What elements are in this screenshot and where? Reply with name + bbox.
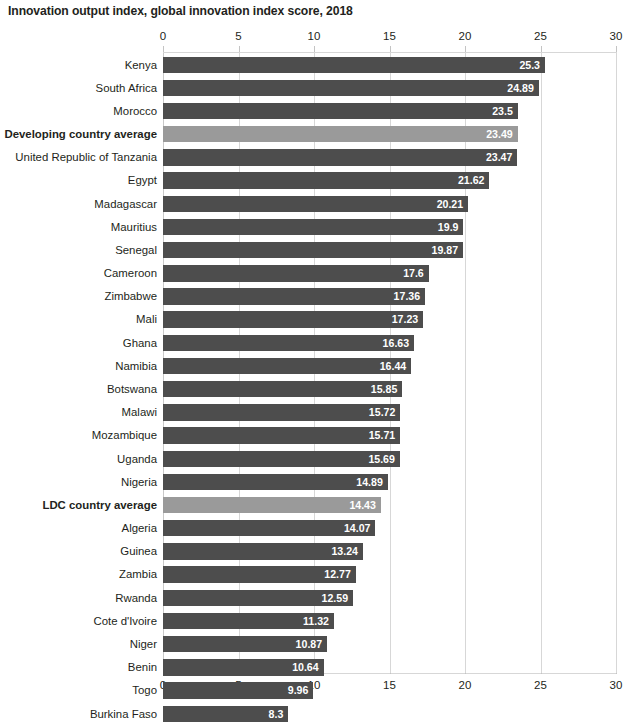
bar[interactable]: 21.62	[163, 172, 489, 188]
bar[interactable]: 25.3	[163, 57, 545, 73]
bar-row: Egypt21.62	[0, 172, 638, 195]
category-label: Guinea	[120, 543, 157, 559]
bar[interactable]: 12.59	[163, 590, 353, 606]
bar-row: United Republic of Tanzania23.47	[0, 149, 638, 172]
bar-value-label: 9.96	[288, 682, 309, 698]
bar-value-label: 15.72	[369, 404, 396, 420]
bar[interactable]: 19.9	[163, 219, 463, 235]
bar-value-label: 15.85	[371, 381, 398, 397]
category-label: Morocco	[113, 103, 157, 119]
category-label: Burkina Faso	[90, 706, 157, 722]
bar-value-label: 19.9	[438, 219, 459, 235]
bar[interactable]: 15.71	[163, 427, 400, 443]
x-tick-label-5: 5	[235, 30, 241, 42]
bar[interactable]: 16.63	[163, 335, 414, 351]
bar[interactable]: 12.77	[163, 566, 356, 582]
bar-row: Zimbabwe17.36	[0, 288, 638, 311]
category-label: Nigeria	[121, 474, 157, 490]
bar-row: Senegal19.87	[0, 242, 638, 265]
bar-value-label: 20.21	[437, 196, 464, 212]
bar-row: Malawi15.72	[0, 404, 638, 427]
x-tick-label-0: 0	[160, 30, 166, 42]
bar[interactable]: 14.43	[163, 497, 381, 513]
x-tick-label-30: 30	[610, 30, 623, 42]
category-label: Namibia	[115, 358, 157, 374]
bar[interactable]: 23.5	[163, 103, 518, 119]
bar[interactable]: 10.87	[163, 636, 327, 652]
bar[interactable]: 9.96	[163, 682, 313, 698]
bar[interactable]: 13.24	[163, 543, 363, 559]
x-tickmark-30	[616, 46, 617, 52]
bar[interactable]: 14.07	[163, 520, 375, 536]
bar-row: Benin10.64	[0, 659, 638, 682]
category-label: Senegal	[115, 242, 157, 258]
bar[interactable]: 14.89	[163, 474, 388, 490]
bar-row: South Africa24.89	[0, 80, 638, 103]
chart-title: Innovation output index, global innovati…	[8, 4, 353, 18]
bar-row: Burkina Faso8.3	[0, 706, 638, 726]
category-label: Benin	[128, 659, 157, 675]
category-label: Rwanda	[115, 590, 157, 606]
category-label: Madagascar	[94, 196, 157, 212]
x-tickmark-5	[239, 46, 240, 52]
x-tickmark-15	[390, 46, 391, 52]
bar-value-label: 14.89	[356, 474, 383, 490]
bar-row: Uganda15.69	[0, 451, 638, 474]
category-label: Algeria	[122, 520, 157, 536]
bar[interactable]: 23.47	[163, 149, 517, 165]
bar-row: Namibia16.44	[0, 358, 638, 381]
bar-value-label: 16.63	[383, 335, 410, 351]
category-label: LDC country average	[42, 497, 157, 513]
bar[interactable]: 10.64	[163, 659, 324, 675]
bar-row: Madagascar20.21	[0, 196, 638, 219]
bar[interactable]: 11.32	[163, 613, 334, 629]
bar-row: Togo9.96	[0, 682, 638, 705]
bar[interactable]: 19.87	[163, 242, 463, 258]
category-label: Developing country average	[4, 126, 157, 142]
bar-row: Cameroon17.6	[0, 265, 638, 288]
bar-value-label: 23.5	[492, 103, 513, 119]
bar-value-label: 10.87	[296, 636, 323, 652]
x-tick-label-20: 20	[459, 30, 472, 42]
category-label: Zambia	[119, 566, 157, 582]
bar-value-label: 14.07	[344, 520, 371, 536]
x-tick-label-25: 25	[534, 30, 547, 42]
category-label: Togo	[132, 682, 157, 698]
bar[interactable]: 15.72	[163, 404, 400, 420]
bar-row: Mauritius19.9	[0, 219, 638, 242]
bar[interactable]: 15.69	[163, 451, 400, 467]
bar-value-label: 15.69	[368, 451, 395, 467]
category-label: Mauritius	[111, 219, 157, 235]
bar[interactable]: 20.21	[163, 196, 468, 212]
bar[interactable]: 24.89	[163, 80, 539, 96]
bar[interactable]: 8.3	[163, 706, 288, 722]
category-label: Kenya	[125, 57, 157, 73]
x-tick-label-15: 15	[383, 30, 396, 42]
bar-value-label: 15.71	[369, 427, 396, 443]
bar-value-label: 21.62	[458, 172, 485, 188]
bar-row: Cote d'Ivoire11.32	[0, 613, 638, 636]
bar-row: Zambia12.77	[0, 566, 638, 589]
bar-value-label: 14.43	[349, 497, 376, 513]
bar[interactable]: 15.85	[163, 381, 402, 397]
category-label: Mali	[136, 311, 157, 327]
bar-row: Nigeria14.89	[0, 474, 638, 497]
bar[interactable]: 17.36	[163, 288, 425, 304]
bar[interactable]: 16.44	[163, 358, 411, 374]
bar-row: Mozambique15.71	[0, 427, 638, 450]
bar-value-label: 25.3	[519, 57, 540, 73]
x-tickmark-25	[541, 46, 542, 52]
category-label: Malawi	[122, 404, 157, 420]
category-label: Uganda	[117, 451, 157, 467]
bar-row: LDC country average14.43	[0, 497, 638, 520]
bar[interactable]: 17.6	[163, 265, 429, 281]
category-label: Mozambique	[92, 427, 157, 443]
category-label: United Republic of Tanzania	[15, 149, 157, 165]
category-label: Egypt	[128, 172, 157, 188]
x-tickmark-20	[465, 46, 466, 52]
bar[interactable]: 17.23	[163, 311, 423, 327]
bar-value-label: 19.87	[432, 242, 459, 258]
bar[interactable]: 23.49	[163, 126, 518, 142]
bar-value-label: 11.32	[303, 613, 329, 629]
x-tick-label-10: 10	[308, 30, 321, 42]
